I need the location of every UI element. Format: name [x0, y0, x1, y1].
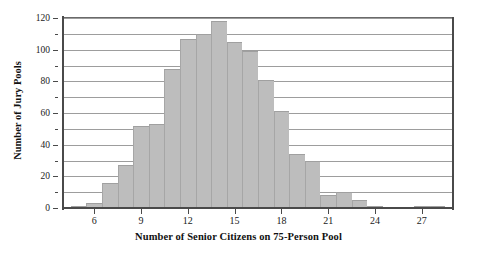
histogram-bar	[258, 80, 274, 208]
histogram-bar	[118, 165, 134, 208]
x-axis-tick-label: 24	[370, 215, 380, 226]
y-axis-tick	[53, 50, 58, 51]
x-axis-tick-label: 27	[417, 215, 427, 226]
histogram-bar	[289, 154, 305, 208]
y-axis-line	[62, 16, 64, 210]
plot-top-border	[62, 17, 454, 18]
y-axis-title: Number of Jury Pools	[12, 46, 23, 176]
gridline	[63, 50, 453, 51]
plot-right-border	[452, 17, 454, 210]
y-axis-tick	[53, 176, 58, 177]
y-axis-minor-tick	[55, 192, 58, 193]
histogram-bar	[102, 183, 118, 208]
x-axis-tick	[375, 209, 376, 214]
y-axis-tick	[53, 81, 58, 82]
histogram-bar	[274, 111, 290, 208]
y-axis-tick	[53, 208, 58, 209]
y-axis-tick-label: 40	[41, 140, 51, 150]
histogram-bar	[336, 192, 352, 208]
y-axis-tick-label: 100	[36, 45, 50, 55]
histogram-figure: 020406080100120 69121518212427 Number of…	[0, 0, 477, 258]
x-axis-tick	[328, 209, 329, 214]
y-axis-minor-tick	[55, 161, 58, 162]
y-axis-labels: 020406080100120	[0, 18, 58, 208]
y-axis-tick-label: 80	[41, 76, 51, 86]
gridline	[63, 18, 453, 19]
x-axis-tick	[94, 209, 95, 214]
x-axis-title: Number of Senior Citizens on 75-Person P…	[0, 231, 477, 242]
y-axis-tick-label: 60	[41, 108, 51, 118]
x-axis-tick-label: 6	[92, 215, 97, 226]
y-axis-minor-tick	[55, 34, 58, 35]
y-axis-tick	[53, 145, 58, 146]
y-axis-minor-tick	[55, 129, 58, 130]
y-axis-tick-label: 0	[45, 203, 50, 213]
x-axis-tick-label: 12	[183, 215, 193, 226]
histogram-bar	[180, 39, 196, 208]
x-axis-tick-label: 21	[323, 215, 333, 226]
y-axis-tick-label: 20	[41, 171, 51, 181]
y-axis-tick	[53, 113, 58, 114]
x-axis-tick	[235, 209, 236, 214]
y-axis-tick-label: 120	[36, 13, 50, 23]
histogram-bar	[133, 126, 149, 208]
x-axis-line	[62, 207, 454, 209]
gridline	[63, 34, 453, 35]
histogram-bar	[196, 34, 212, 208]
histogram-bar	[305, 161, 321, 209]
x-axis-tick-label: 9	[139, 215, 144, 226]
y-axis-minor-tick	[55, 97, 58, 98]
histogram-bar	[211, 21, 227, 208]
x-axis-tick	[141, 209, 142, 214]
histogram-bar	[164, 69, 180, 208]
histogram-bar	[149, 124, 165, 208]
x-axis-tick	[422, 209, 423, 214]
y-axis-tick	[53, 18, 58, 19]
x-axis-tick-label: 15	[230, 215, 240, 226]
x-axis-tick-label: 18	[276, 215, 286, 226]
x-axis-tick	[281, 209, 282, 214]
histogram-bar	[227, 42, 243, 208]
plot-area	[63, 18, 453, 208]
histogram-bar	[242, 51, 258, 208]
gridline	[63, 66, 453, 67]
y-axis-minor-tick	[55, 66, 58, 67]
x-axis-tick	[188, 209, 189, 214]
